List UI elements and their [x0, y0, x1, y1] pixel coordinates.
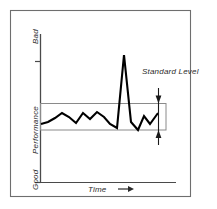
time-arrow-head	[128, 186, 134, 192]
performance-line	[41, 55, 158, 130]
y-axis-top-label: Bad	[31, 29, 40, 44]
band-arrow-head-down	[156, 96, 162, 104]
figure-container: Bad Performance Good Time Standard Level	[0, 0, 217, 209]
band-arrow-head-up	[156, 130, 162, 138]
y-axis-bottom-label: Good	[31, 170, 40, 190]
x-axis-label: Time	[88, 185, 107, 194]
y-axis-label: Performance	[31, 106, 40, 154]
standard-level-annotation: Standard Level	[142, 67, 199, 76]
